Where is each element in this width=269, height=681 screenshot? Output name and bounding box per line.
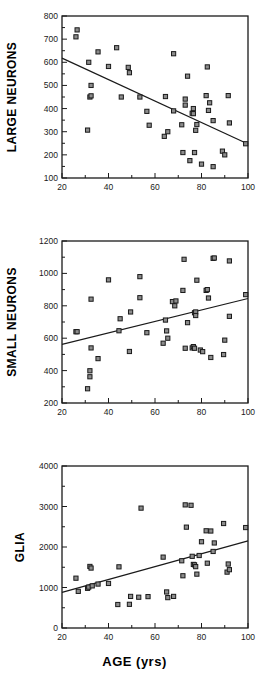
- data-point: [223, 153, 227, 157]
- data-point: [183, 103, 187, 107]
- data-point: [117, 565, 121, 569]
- data-point: [145, 109, 149, 113]
- data-point: [244, 142, 248, 146]
- data-point: [204, 529, 208, 533]
- y-tick-label: 1000: [39, 268, 58, 278]
- x-tick-label: 60: [150, 632, 160, 642]
- scatter-plot-2: 0100020003000400020406080100GLIA: [0, 450, 269, 681]
- panel-large-neurons: 10020030040050060070080020406080100LARGE…: [0, 0, 269, 222]
- data-point: [221, 521, 225, 525]
- x-tick-label: 40: [104, 632, 114, 642]
- y-axis-label: GLIA: [13, 532, 27, 562]
- y-tick-label: 500: [44, 80, 58, 90]
- y-tick-label: 800: [44, 11, 58, 21]
- data-point: [205, 288, 209, 292]
- data-point: [226, 94, 230, 98]
- data-point: [188, 159, 192, 163]
- y-tick-label: 1000: [39, 583, 58, 593]
- x-tick-label: 40: [104, 407, 114, 417]
- data-point: [165, 590, 169, 594]
- data-point: [211, 549, 215, 553]
- data-point: [192, 346, 196, 350]
- data-point: [204, 94, 208, 98]
- data-point: [183, 503, 187, 507]
- x-tick-label: 80: [197, 407, 207, 417]
- data-point: [208, 101, 212, 105]
- x-tick-label: 80: [197, 632, 207, 642]
- data-point: [227, 568, 231, 572]
- y-tick-label: 2000: [39, 542, 58, 552]
- data-point: [165, 329, 169, 333]
- data-point: [128, 310, 132, 314]
- data-point: [137, 595, 141, 599]
- data-point: [119, 95, 123, 99]
- data-point: [211, 165, 215, 169]
- data-point: [88, 375, 92, 379]
- data-point: [172, 52, 176, 56]
- scatter-plot-1: 2004006008001000120020406080100SMALL NEU…: [0, 225, 269, 447]
- data-point: [199, 162, 203, 166]
- data-point: [147, 123, 151, 127]
- panel-glia: 0100020003000400020406080100GLIA: [0, 450, 269, 681]
- data-point: [127, 602, 131, 606]
- data-point: [244, 293, 248, 297]
- y-tick-label: 3000: [39, 502, 58, 512]
- x-tick-label: 60: [150, 182, 160, 192]
- data-point: [182, 257, 186, 261]
- data-point: [89, 297, 93, 301]
- data-point: [74, 576, 78, 580]
- data-point: [185, 321, 189, 325]
- data-point: [85, 128, 89, 132]
- data-point: [180, 559, 184, 563]
- y-tick-label: 1200: [39, 236, 58, 246]
- x-tick-label: 20: [57, 407, 67, 417]
- data-point: [201, 350, 205, 354]
- data-point: [75, 330, 79, 334]
- data-point: [184, 525, 188, 529]
- y-tick-label: 600: [44, 57, 58, 67]
- data-point: [145, 331, 149, 335]
- data-point: [127, 349, 131, 353]
- data-point: [212, 541, 216, 545]
- y-tick-label: 200: [44, 398, 58, 408]
- x-tick-label: 100: [241, 407, 255, 417]
- data-point: [181, 150, 185, 154]
- data-point: [191, 112, 195, 116]
- x-tick-label: 100: [241, 182, 255, 192]
- data-point: [180, 123, 184, 127]
- y-tick-label: 700: [44, 34, 58, 44]
- data-point: [89, 346, 93, 350]
- y-tick-label: 4000: [39, 461, 58, 471]
- data-point: [221, 352, 225, 356]
- x-tick-label: 20: [57, 632, 67, 642]
- data-point: [183, 97, 187, 101]
- data-point: [106, 581, 110, 585]
- data-point: [90, 584, 94, 588]
- data-point: [194, 128, 198, 132]
- data-point: [139, 506, 143, 510]
- data-point: [205, 65, 209, 69]
- data-point: [181, 288, 185, 292]
- plot-frame: [62, 466, 248, 628]
- data-point: [116, 602, 120, 606]
- data-point: [174, 299, 178, 303]
- data-point: [106, 64, 110, 68]
- data-point: [76, 589, 80, 593]
- data-point: [106, 278, 110, 282]
- data-point: [85, 387, 89, 391]
- data-point: [115, 46, 119, 50]
- data-point: [206, 108, 210, 112]
- data-point: [127, 71, 131, 75]
- data-point: [172, 109, 176, 113]
- data-point: [166, 596, 170, 600]
- data-point: [206, 296, 210, 300]
- data-point: [161, 555, 165, 559]
- regression-line: [62, 299, 248, 345]
- y-tick-label: 400: [44, 366, 58, 376]
- data-point: [227, 121, 231, 125]
- data-point: [162, 134, 166, 138]
- data-point: [117, 329, 121, 333]
- data-point: [189, 503, 193, 507]
- data-point: [185, 74, 189, 78]
- data-point: [209, 529, 213, 533]
